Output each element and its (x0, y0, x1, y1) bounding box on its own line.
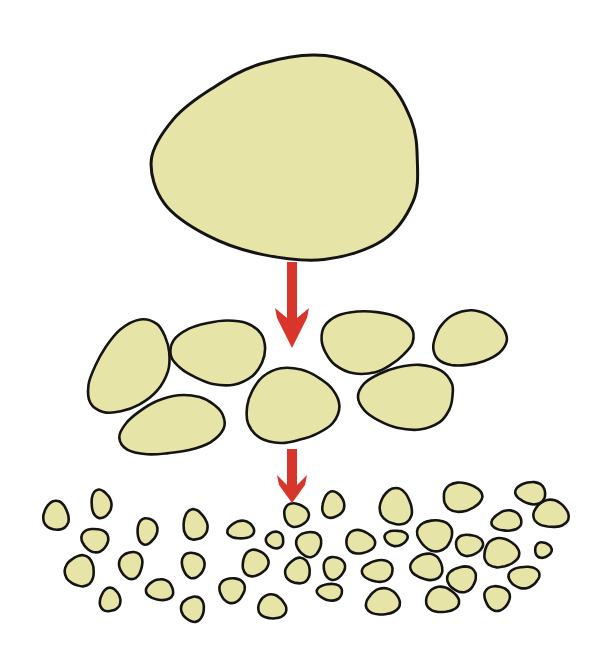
small-particle (181, 597, 204, 622)
small-particle (243, 550, 269, 577)
small-particle (285, 558, 310, 584)
medium-particle (247, 368, 340, 443)
small-particle (284, 503, 309, 527)
small-particle (182, 553, 205, 579)
small-particle (324, 557, 345, 580)
medium-particle (170, 321, 265, 386)
large-particle-group (151, 55, 418, 260)
diagram-canvas (0, 0, 611, 666)
small-particle (492, 510, 522, 530)
small-particle (296, 532, 321, 557)
small-particle (380, 488, 412, 524)
small-particle (444, 483, 483, 512)
small-particle (410, 554, 442, 580)
small-particle (484, 586, 510, 611)
small-particle (322, 491, 344, 518)
small-particle (508, 567, 539, 589)
small-particle (119, 552, 142, 579)
small-particle (184, 509, 208, 540)
small-particles-group (43, 482, 568, 622)
medium-particle (433, 310, 507, 365)
small-particle (533, 500, 568, 527)
small-particle (100, 588, 121, 612)
particle-breakdown-diagram (0, 0, 611, 666)
small-particle (447, 566, 476, 592)
small-particle (362, 560, 393, 582)
small-particle (43, 501, 68, 530)
medium-particle (88, 319, 170, 412)
small-particle (65, 555, 94, 586)
small-particle (515, 482, 545, 504)
down-arrow-icon (275, 262, 309, 348)
small-particle (81, 529, 108, 552)
small-particle (317, 584, 342, 601)
small-particle (346, 530, 375, 554)
down-arrow-icon (277, 449, 307, 503)
small-particle (484, 538, 519, 567)
medium-particle (322, 311, 414, 374)
small-particle (535, 542, 552, 558)
small-particle (258, 594, 286, 618)
small-particle (227, 521, 254, 539)
small-particle (456, 535, 483, 556)
large-particle (151, 55, 418, 260)
small-particle (138, 518, 158, 545)
small-particle (385, 531, 408, 546)
small-particle (219, 578, 244, 603)
small-particle (366, 588, 400, 614)
small-particle (266, 532, 283, 549)
medium-particle (358, 365, 453, 430)
small-particle (417, 520, 452, 551)
small-particle (146, 579, 173, 600)
small-particle (92, 489, 112, 518)
